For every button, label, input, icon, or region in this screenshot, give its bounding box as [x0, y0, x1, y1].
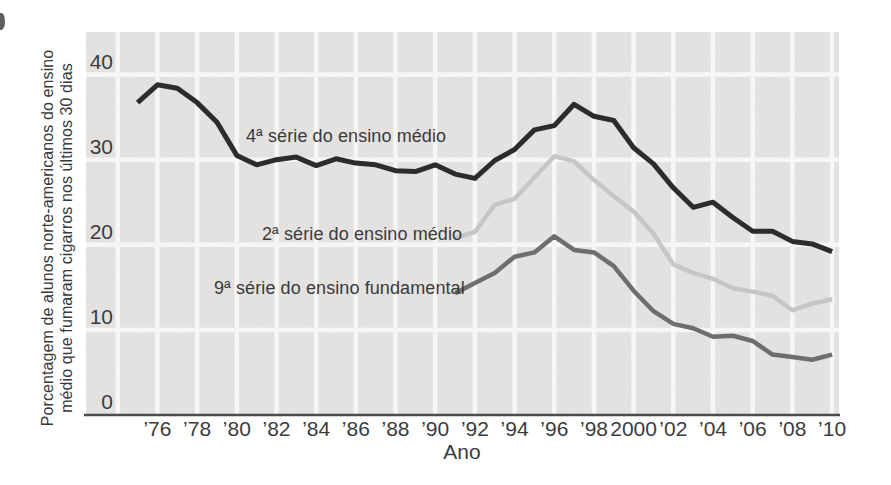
x-tick-label: ’94 [501, 417, 529, 440]
x-tick-label: ’76 [143, 417, 171, 440]
x-tick-label: ’04 [699, 417, 727, 440]
x-axis-title: Ano [443, 440, 480, 464]
series-label-4a-serie-ensino-medio: 4ª série do ensino médio [246, 126, 446, 147]
x-tick-label: ’96 [540, 417, 568, 440]
x-tick-label: ’06 [739, 417, 767, 440]
x-tick-label: 2000 [610, 417, 657, 440]
x-tick-label: ’82 [262, 417, 290, 440]
x-tick-label: ’92 [461, 417, 489, 440]
y-tick-label: 40 [90, 50, 113, 73]
x-tick-label: ’08 [778, 417, 806, 440]
y-tick-label: 10 [90, 305, 113, 328]
x-tick-labels: ’76’78’80’82’84’86’88’90’92’94’96’982000… [143, 417, 846, 440]
y-tick-label: 20 [90, 220, 113, 243]
x-tick-label: ’90 [421, 417, 449, 440]
x-tick-label: ’84 [302, 417, 330, 440]
y-tick-label: 30 [90, 135, 113, 158]
smoking-prevalence-chart-figure: Porcentagem de alunos norte-americanos d… [0, 0, 891, 485]
x-tick-label: ’98 [580, 417, 608, 440]
series-label-9a-serie-ensino-fundamental: 9ª série do ensino fundamental [214, 278, 465, 299]
x-tick-label: ’88 [381, 417, 409, 440]
y-tick-label: 0 [101, 390, 113, 413]
x-tick-label: ’80 [223, 417, 251, 440]
series-label-2a-serie-ensino-medio: 2ª série do ensino médio [262, 224, 462, 245]
x-tick-label: ’02 [659, 417, 687, 440]
x-tick-label: ’86 [342, 417, 370, 440]
scan-noise-overlay [86, 32, 839, 415]
x-tick-label: ’78 [183, 417, 211, 440]
x-tick-label: ’10 [818, 417, 846, 440]
